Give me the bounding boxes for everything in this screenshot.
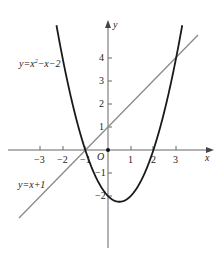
- y-axis-arrow-icon: [105, 20, 111, 28]
- y-tick-label: −2: [95, 191, 106, 201]
- y-tick-label: 1: [99, 122, 104, 132]
- origin-point: [106, 148, 110, 152]
- y-axis-label: y: [113, 20, 117, 30]
- y-tick-label: −1: [95, 168, 106, 178]
- origin-label: O: [97, 152, 104, 162]
- y-tick-label: 4: [99, 53, 104, 63]
- x-tick-label: 1: [128, 155, 133, 165]
- x-tick-label: −2: [57, 155, 68, 165]
- y-tick-label: 2: [99, 99, 104, 109]
- x-tick-label: −1: [80, 155, 91, 165]
- parabola-curve: [56, 25, 182, 201]
- coordinate-plane: [0, 0, 224, 253]
- x-axis-label: x: [205, 153, 209, 163]
- x-tick-label: 2: [151, 155, 156, 165]
- x-tick-label: 3: [173, 155, 178, 165]
- line-label: y=x+1: [18, 180, 45, 190]
- y-tick-label: 3: [99, 76, 104, 86]
- parabola-label: y=x2−x−2: [19, 58, 61, 69]
- x-tick-label: −3: [34, 155, 45, 165]
